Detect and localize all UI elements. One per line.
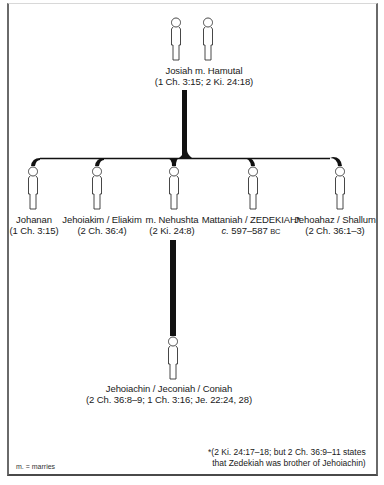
- person-icon-jehoahaz: [332, 166, 348, 210]
- parents-names: Josiah m. Hamutal: [155, 65, 253, 76]
- person-icon-josiah: [168, 17, 184, 61]
- child-name: Jehoahaz / Shallum: [294, 214, 376, 225]
- person-icon-hamutal: [200, 17, 216, 61]
- child-name: Mattaniah / ZEDEKIAH*: [202, 214, 301, 225]
- child-name: m. Nehushta: [146, 214, 199, 225]
- grandchild-refs: (2 Ch. 36:8–9; 1 Ch. 3:16; Je. 22:24, 28…: [86, 394, 252, 405]
- person-icon-zedekiah: [245, 166, 261, 210]
- child-label-jehoiakim: Jehoiakim / Eliakim (2 Ch. 36:4): [62, 214, 141, 236]
- parent-trunk-line: [182, 90, 187, 156]
- parents-label: Josiah m. Hamutal (1 Ch. 3:15; 2 Ki. 24:…: [155, 65, 253, 87]
- person-icon-jehoiakim: [89, 166, 105, 210]
- child-label-johanan: Johanan (1 Ch. 3:15): [10, 214, 59, 236]
- person-icon-nehushta: [166, 166, 182, 210]
- child-label-zedekiah: Mattaniah / ZEDEKIAH* c. 597–587 BC: [202, 214, 301, 237]
- child-refs: (2 Ki. 24:8): [146, 225, 199, 236]
- child-refs: c. 597–587 BC: [202, 225, 301, 237]
- parents-refs: (1 Ch. 3:15; 2 Ki. 24:18): [155, 76, 253, 87]
- child-name: Johanan: [10, 214, 59, 225]
- footnote-line-2: that Zedekiah was brother of Jehoiachin): [208, 458, 366, 469]
- child-label-jehoahaz: Jehoahaz / Shallum (2 Ch. 36:1–3): [294, 214, 376, 236]
- spouse-label-nehushta: m. Nehushta (2 Ki. 24:8): [146, 214, 199, 236]
- child-name: Jehoiakim / Eliakim: [62, 214, 141, 225]
- child-refs: (2 Ch. 36:1–3): [294, 225, 376, 236]
- child-refs: (2 Ch. 36:4): [62, 225, 141, 236]
- grandchild-name: Jehoiachin / Jeconiah / Coniah: [86, 383, 252, 394]
- child-refs: (1 Ch. 3:15): [10, 225, 59, 236]
- legend-marries: m. = marries: [16, 463, 55, 470]
- footnote-line-1: *(2 Ki. 24:17–18; but 2 Ch. 36:9–11 stat…: [208, 447, 366, 458]
- person-icon-johanan: [25, 166, 41, 210]
- descent-line: [170, 240, 176, 336]
- person-icon-jehoiachin: [165, 336, 181, 380]
- grandchild-label-jehoiachin: Jehoiachin / Jeconiah / Coniah (2 Ch. 36…: [86, 383, 252, 405]
- footnote: *(2 Ki. 24:17–18; but 2 Ch. 36:9–11 stat…: [208, 447, 366, 468]
